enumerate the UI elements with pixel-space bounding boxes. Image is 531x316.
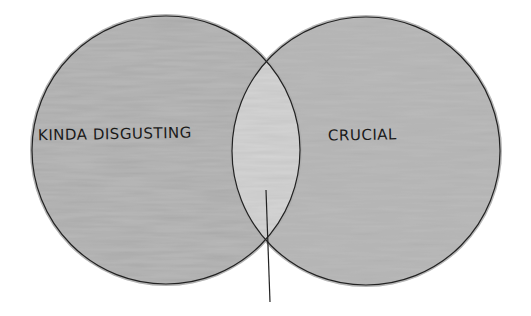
left-set-label: KINDA DISGUSTING: [38, 124, 192, 145]
right-set-label: CRUCIAL: [328, 125, 397, 144]
venn-diagram: [0, 0, 531, 316]
